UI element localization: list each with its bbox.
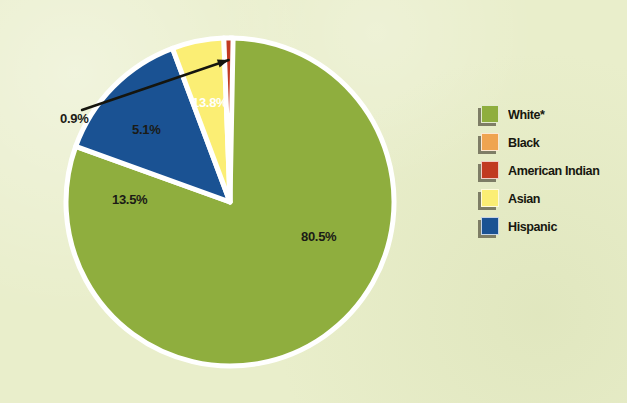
- pie-chart-svg: [0, 0, 440, 403]
- legend-item-label: Asian: [508, 192, 540, 206]
- legend-color-swatch: [481, 133, 499, 151]
- legend-item-label: American Indian: [508, 164, 599, 178]
- legend-item-label: White*: [508, 108, 545, 122]
- legend-item-label: Black: [508, 136, 539, 150]
- pie-value-label-asian: 5.1%: [132, 122, 160, 137]
- pie-value-label-american-indian: 0.9%: [60, 111, 88, 126]
- pie-chart: 80.5%13.8%5.1%0.9%13.5%: [0, 0, 440, 403]
- legend-swatch-wrapper: [478, 189, 499, 210]
- legend-color-swatch: [481, 189, 499, 207]
- legend-color-swatch: [481, 161, 499, 179]
- legend-item-black[interactable]: Black: [478, 130, 623, 156]
- legend-swatch-wrapper: [478, 105, 499, 126]
- legend-swatch-wrapper: [478, 133, 499, 154]
- legend-item-label: Hispanic: [508, 220, 557, 234]
- legend: White*BlackAmerican IndianAsianHispanic: [478, 102, 623, 242]
- legend-color-swatch: [481, 217, 499, 235]
- legend-swatch-wrapper: [478, 161, 499, 182]
- pie-value-label-black: 13.5%: [112, 192, 147, 207]
- pie-slice-group: [66, 38, 440, 391]
- pie-value-label-hispanic: 13.8%: [192, 95, 227, 110]
- legend-color-swatch: [481, 105, 499, 123]
- legend-item-asian[interactable]: Asian: [478, 186, 623, 212]
- legend-swatch-wrapper: [478, 217, 499, 238]
- pie-value-label-white: 80.5%: [301, 229, 336, 244]
- legend-item-american-indian[interactable]: American Indian: [478, 158, 623, 184]
- legend-item-hispanic[interactable]: Hispanic: [478, 214, 623, 240]
- legend-item-white[interactable]: White*: [478, 102, 623, 128]
